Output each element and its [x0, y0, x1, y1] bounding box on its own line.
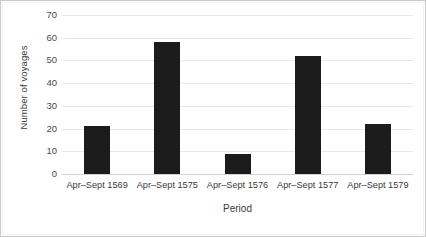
bar-slot [343, 15, 413, 174]
bar-slot [273, 15, 343, 174]
x-axis-title: Period [62, 203, 413, 214]
y-axis-tick-label: 0 [31, 169, 57, 179]
y-axis-tick-label: 70 [31, 10, 57, 20]
bar-slot [132, 15, 202, 174]
x-axis-tick-label: Apr–Sept 1569 [62, 177, 132, 193]
bars-group [62, 15, 413, 174]
x-axis-tick-labels: Apr–Sept 1569Apr–Sept 1575Apr–Sept 1576A… [62, 177, 413, 193]
bar[interactable] [365, 124, 391, 174]
y-axis-tick-label: 20 [31, 124, 57, 134]
x-axis-tick-label: Apr–Sept 1577 [273, 177, 343, 193]
y-axis-tick-label: 40 [31, 78, 57, 88]
axis-baseline [62, 174, 413, 175]
bar[interactable] [225, 154, 251, 174]
bar[interactable] [84, 126, 110, 174]
plot-area [62, 15, 413, 174]
bar[interactable] [295, 56, 321, 174]
x-axis-tick-label: Apr–Sept 1575 [132, 177, 202, 193]
bar-chart: Number of voyages 706050403020100 Apr–Se… [0, 0, 426, 237]
y-axis-tick-label: 50 [31, 56, 57, 66]
y-axis-tick-labels: 706050403020100 [31, 15, 57, 174]
y-axis-title: Number of voyages [15, 1, 31, 174]
x-axis-tick-label: Apr–Sept 1579 [343, 177, 413, 193]
x-axis-tick-label: Apr–Sept 1576 [202, 177, 272, 193]
y-axis-title-text: Number of voyages [18, 45, 29, 129]
y-axis-tick-label: 10 [31, 147, 57, 157]
bar[interactable] [154, 42, 180, 174]
bar-slot [202, 15, 272, 174]
y-axis-tick-label: 60 [31, 33, 57, 43]
y-axis-tick-label: 30 [31, 101, 57, 111]
bar-slot [62, 15, 132, 174]
